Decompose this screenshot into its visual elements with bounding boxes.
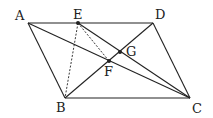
label-E: E (73, 7, 83, 22)
segment-EC (78, 23, 190, 98)
segment-EF (78, 23, 109, 61)
geometry-diagram: A E D B C G F (0, 0, 213, 118)
point-F (107, 59, 111, 63)
label-D: D (155, 7, 165, 22)
label-F: F (104, 64, 113, 79)
label-C: C (192, 101, 202, 116)
label-B: B (56, 100, 66, 115)
points (76, 21, 122, 63)
segment-EB (65, 23, 78, 98)
segment-DC (153, 23, 190, 98)
label-G: G (126, 44, 136, 59)
label-A: A (14, 8, 25, 23)
segment-AB (28, 23, 65, 98)
point-G (118, 50, 122, 54)
